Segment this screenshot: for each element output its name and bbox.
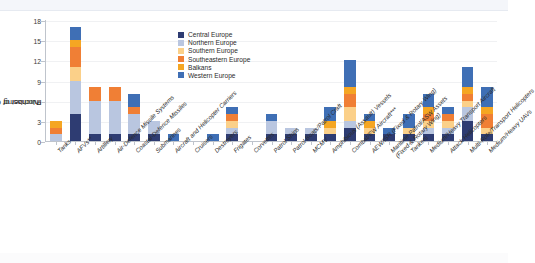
bar-segment[interactable]: [70, 27, 82, 40]
x-tick-mark: [252, 142, 253, 145]
legend-item[interactable]: Western Europe: [178, 72, 250, 79]
x-tick-mark: [350, 142, 351, 145]
legend-swatch: [178, 40, 184, 46]
legend-swatch: [178, 32, 184, 38]
stacked-bar[interactable]: [109, 87, 121, 141]
stacked-bar-chart: Number of CountriesPurchasing 0369121518…: [0, 11, 508, 253]
x-tick-mark: [95, 142, 96, 145]
bar-segment[interactable]: [70, 40, 82, 47]
bar-segment[interactable]: [70, 67, 82, 80]
page-bottom-band: [0, 253, 508, 263]
y-tick-label: 9: [23, 78, 41, 85]
bar-segment[interactable]: [50, 134, 62, 141]
x-tick-mark: [370, 142, 371, 145]
legend-swatch: [178, 64, 184, 70]
legend-label: Central Europe: [188, 31, 232, 38]
legend-item[interactable]: Southeastern Europe: [178, 56, 250, 63]
page-top-band: [0, 0, 508, 11]
y-axis-title: Number of CountriesPurchasing: [2, 47, 24, 157]
legend-label: Balkans: [188, 64, 211, 71]
legend-item[interactable]: Southern Europe: [178, 47, 250, 54]
y-tick-mark: [41, 61, 45, 62]
bar-segment[interactable]: [109, 87, 121, 100]
bar-slot[interactable]: [66, 20, 86, 141]
bar-segment[interactable]: [462, 87, 474, 94]
chart-legend: Central EuropeNorthern EuropeSouthern Eu…: [178, 31, 250, 79]
y-tick-mark: [41, 82, 45, 83]
x-tick-mark: [291, 142, 292, 145]
bar-segment[interactable]: [462, 94, 474, 101]
y-tick-label: 6: [23, 98, 41, 105]
bar-segment[interactable]: [226, 114, 238, 121]
bar-segment[interactable]: [50, 128, 62, 135]
legend-label: Western Europe: [188, 72, 236, 79]
stacked-bar[interactable]: [89, 87, 101, 141]
bar-segment[interactable]: [128, 94, 140, 107]
x-tick-mark: [311, 142, 312, 145]
y-tick-label: 18: [23, 18, 41, 25]
x-tick-mark: [75, 142, 76, 145]
stacked-bar[interactable]: [70, 27, 82, 141]
x-tick-mark: [232, 142, 233, 145]
y-tick-label: 12: [23, 58, 41, 65]
y-tick-label: 3: [23, 118, 41, 125]
x-tick-mark: [115, 142, 116, 145]
x-tick-mark: [389, 142, 390, 145]
bar-segment[interactable]: [226, 121, 238, 128]
legend-swatch: [178, 48, 184, 54]
bar-segment[interactable]: [89, 101, 101, 135]
bar-segment[interactable]: [344, 60, 356, 87]
y-tick-mark: [41, 142, 45, 143]
bar-slot[interactable]: [281, 20, 301, 141]
y-tick-mark: [41, 21, 45, 22]
bar-segment[interactable]: [266, 114, 278, 121]
stacked-bar[interactable]: [50, 121, 62, 141]
bar-segment[interactable]: [70, 81, 82, 115]
y-tick-mark: [41, 122, 45, 123]
legend-item[interactable]: Central Europe: [178, 31, 250, 38]
x-tick-mark: [193, 142, 194, 145]
bar-segment[interactable]: [324, 128, 336, 135]
bar-segment[interactable]: [344, 107, 356, 120]
legend-swatch: [178, 56, 184, 62]
legend-item[interactable]: Northern Europe: [178, 39, 250, 46]
bar-segment[interactable]: [109, 101, 121, 135]
x-tick-mark: [213, 142, 214, 145]
x-tick-mark: [428, 142, 429, 145]
y-tick-mark: [41, 41, 45, 42]
x-tick-mark: [448, 142, 449, 145]
x-tick-mark: [173, 142, 174, 145]
bar-slot[interactable]: [46, 20, 66, 141]
y-tick-label: 0: [23, 139, 41, 146]
legend-label: Northern Europe: [188, 39, 237, 46]
x-tick-mark: [56, 142, 57, 145]
legend-label: Southeastern Europe: [188, 56, 250, 63]
bar-segment[interactable]: [70, 114, 82, 141]
x-tick-mark: [154, 142, 155, 145]
bar-segment[interactable]: [344, 87, 356, 94]
bar-segment[interactable]: [442, 114, 454, 121]
legend-label: Southern Europe: [188, 47, 238, 54]
bar-segment[interactable]: [462, 67, 474, 87]
bar-segment[interactable]: [128, 107, 140, 114]
bar-segment[interactable]: [70, 47, 82, 67]
y-tick-label: 15: [23, 38, 41, 45]
bar-slot[interactable]: [85, 20, 105, 141]
x-tick-mark: [134, 142, 135, 145]
x-tick-mark: [468, 142, 469, 145]
bar-segment[interactable]: [226, 107, 238, 114]
bar-slot[interactable]: [105, 20, 125, 141]
x-axis-labels: TanksAFVs**ArtilleryAir-Defence Missile …: [46, 147, 497, 247]
legend-swatch: [178, 72, 184, 78]
y-tick-mark: [41, 102, 45, 103]
bar-segment[interactable]: [50, 121, 62, 128]
bar-slot[interactable]: [262, 20, 282, 141]
bar-segment[interactable]: [344, 94, 356, 107]
x-tick-mark: [487, 142, 488, 145]
legend-item[interactable]: Balkans: [178, 64, 250, 71]
bar-segment[interactable]: [89, 87, 101, 100]
x-tick-mark: [330, 142, 331, 145]
x-tick-mark: [272, 142, 273, 145]
